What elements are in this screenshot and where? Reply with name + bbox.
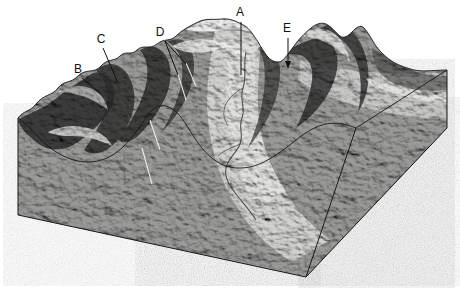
terrain-surface <box>0 0 460 291</box>
label-d: D <box>156 25 165 39</box>
label-b: B <box>74 62 82 76</box>
label-a: A <box>236 5 244 19</box>
figure-container: A B C D E <box>0 0 460 291</box>
block-diagram: A B C D E <box>0 0 460 291</box>
label-e: E <box>283 21 291 35</box>
label-c: C <box>97 32 106 46</box>
